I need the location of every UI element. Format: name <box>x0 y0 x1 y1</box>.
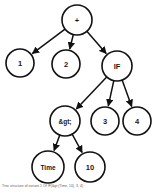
tree-node-n1: 1 <box>6 49 34 77</box>
node-label: Time <box>40 164 55 171</box>
expression-tree-figure: +12IF&gt;34Time10 Tree structure of vari… <box>0 0 154 193</box>
tree-node-n3: 3 <box>91 107 119 135</box>
figure-caption: Tree structure of variant 1 Of IF(&gt;(T… <box>2 184 152 188</box>
node-label: 10 <box>86 163 94 172</box>
tree-edges <box>32 29 131 152</box>
tree-node-n10: 10 <box>75 152 105 182</box>
tree-node-root: + <box>62 5 92 35</box>
tree-edge <box>87 31 106 53</box>
tree-edge <box>76 77 106 109</box>
tree-edge <box>70 35 74 49</box>
node-label: 2 <box>64 60 68 69</box>
tree-edge <box>32 29 65 54</box>
tree-diagram: +12IF&gt;34Time10 <box>0 0 154 193</box>
node-label: 1 <box>18 59 22 68</box>
tree-edge <box>72 134 82 152</box>
tree-node-n4: 4 <box>123 107 151 135</box>
node-label: IF <box>114 62 121 71</box>
node-label: 3 <box>103 117 107 126</box>
node-label: &gt; <box>59 118 72 126</box>
tree-edge <box>108 81 113 106</box>
node-label: + <box>75 16 80 25</box>
tree-nodes: +12IF&gt;34Time10 <box>6 5 151 183</box>
tree-node-ngt: &gt; <box>50 106 80 136</box>
tree-node-nif: IF <box>102 51 132 81</box>
tree-node-ntime: Time <box>32 151 64 183</box>
tree-node-n2: 2 <box>52 50 80 78</box>
tree-edge <box>54 135 60 151</box>
tree-edge <box>122 80 132 106</box>
